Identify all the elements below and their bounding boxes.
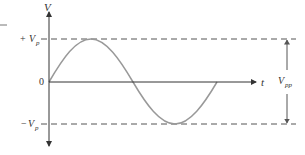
voltage-axis-label: V bbox=[44, 1, 52, 13]
positive-peak-subscript: p bbox=[35, 39, 40, 47]
sine-waveform-diagram: V t + V p 0 − V p V pp bbox=[0, 0, 305, 155]
time-axis-label: t bbox=[261, 76, 265, 88]
negative-peak-sign: − bbox=[21, 118, 27, 129]
negative-peak-subscript: p bbox=[34, 124, 39, 132]
zero-label: 0 bbox=[39, 76, 44, 87]
positive-peak-sign: + bbox=[20, 33, 26, 44]
peak-to-peak-subscript: pp bbox=[284, 81, 293, 89]
